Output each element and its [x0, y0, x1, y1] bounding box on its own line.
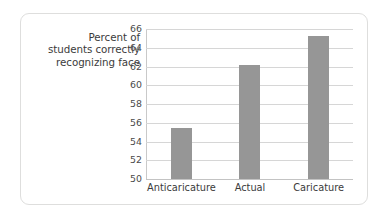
bar: [308, 36, 329, 179]
bar-slot: [147, 29, 216, 179]
gridline-50: [146, 179, 353, 180]
y-tick-label-52: 52: [116, 156, 142, 165]
x-axis-label: Caricature: [284, 182, 353, 193]
bar: [239, 65, 260, 179]
x-axis-labels: AnticaricatureActualCaricature: [147, 182, 353, 198]
y-tick-label-60: 60: [116, 81, 142, 90]
x-axis-label: Actual: [216, 182, 285, 193]
y-tick-label-54: 54: [116, 137, 142, 146]
y-tick-label-62: 62: [116, 62, 142, 71]
bar-slot: [284, 29, 353, 179]
bar: [171, 128, 192, 179]
y-tick-label-64: 64: [116, 43, 142, 52]
y-tick-label-58: 58: [116, 99, 142, 108]
chart-card: Percent of students correctly recognizin…: [20, 13, 368, 205]
bars-layer: [147, 29, 353, 179]
bar-slot: [216, 29, 285, 179]
x-axis-label: Anticaricature: [147, 182, 216, 193]
y-tick-label-50: 50: [116, 174, 142, 183]
plot-area: 505254565860626466: [146, 29, 353, 179]
y-tick-label-56: 56: [116, 118, 142, 127]
y-tick-label-66: 66: [116, 24, 142, 33]
